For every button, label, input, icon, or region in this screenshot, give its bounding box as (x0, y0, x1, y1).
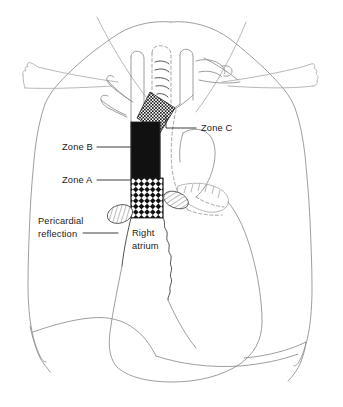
label-pericardial-reflection-line1: Pericardial (38, 216, 84, 226)
label-pericardial-reflection-line2: reflection (38, 229, 77, 239)
zone-b-band (131, 122, 160, 178)
anatomical-figure: Zone C Zone B Zone A Pericardial reflect… (0, 0, 343, 407)
label-right-atrium-line1: Right (132, 228, 155, 238)
label-right-atrium-line2: atrium (132, 241, 159, 251)
label-zone-b: Zone B (62, 142, 93, 152)
label-zone-c: Zone C (201, 123, 233, 133)
zone-a-band (131, 178, 163, 218)
chest-anatomy-diagram: Zone C Zone B Zone A Pericardial reflect… (0, 0, 343, 407)
label-zone-a: Zone A (62, 175, 93, 185)
